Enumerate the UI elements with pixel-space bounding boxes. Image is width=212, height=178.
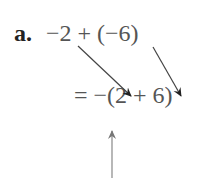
arrow-from-6 (153, 47, 181, 96)
arrow-from-2 (78, 46, 131, 96)
annotation-arrows (0, 0, 212, 178)
